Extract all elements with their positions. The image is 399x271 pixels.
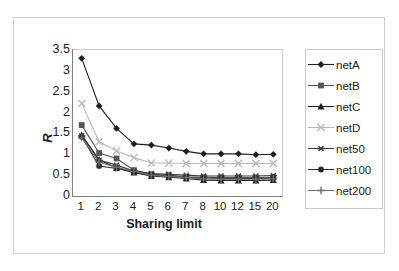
- legend-symbol-square-icon: [306, 75, 336, 96]
- y-tick-label: 1.5: [36, 127, 70, 137]
- chart-legend: netAnetBnetCnetDnet50net100net200: [305, 49, 383, 209]
- y-tick-label: 3: [36, 65, 70, 75]
- legend-label: net200: [336, 185, 371, 197]
- data-point-cross: [130, 154, 137, 161]
- legend-item-netA: netA: [306, 54, 382, 75]
- plot-container: R 00.511.522.533.5 1234567810121520 Shar…: [14, 18, 294, 255]
- legend-item-netD: netD: [306, 117, 382, 138]
- series-line-netA: [82, 58, 274, 154]
- legend-symbol-triangle-icon: [306, 96, 336, 117]
- y-tick-label: 2: [36, 107, 70, 117]
- legend-label: netC: [336, 101, 360, 113]
- series-line-netB: [82, 125, 274, 178]
- data-point-diamond: [218, 150, 225, 157]
- data-point-diamond: [270, 151, 277, 158]
- y-tick-label: 2.5: [36, 86, 70, 96]
- data-point-plus: [317, 187, 324, 194]
- data-point-square: [96, 150, 102, 156]
- series-line-netC: [82, 135, 274, 180]
- series-line-net200: [82, 138, 274, 180]
- y-tick-label: 1: [36, 148, 70, 158]
- data-point-diamond: [235, 150, 242, 157]
- data-point-diamond: [318, 61, 325, 68]
- data-point-asterisk: [317, 146, 324, 151]
- data-point-diamond: [148, 142, 155, 149]
- legend-item-net200: net200: [306, 180, 382, 201]
- data-point-cross: [96, 138, 103, 145]
- data-point-square: [318, 83, 324, 89]
- data-point-diamond: [200, 150, 207, 157]
- legend-label: netD: [336, 122, 360, 134]
- chart-figure: R 00.511.522.533.5 1234567810121520 Shar…: [13, 17, 385, 254]
- legend-symbol-diamond-icon: [306, 54, 336, 75]
- legend-item-netC: netC: [306, 96, 382, 117]
- series-canvas: [73, 50, 282, 196]
- data-point-square: [79, 122, 85, 128]
- legend-symbol-cross-icon: [306, 117, 336, 138]
- legend-item-netB: netB: [306, 75, 382, 96]
- legend-label: net100: [336, 164, 371, 176]
- y-tick-label: 0.5: [36, 169, 70, 179]
- legend-label: netA: [336, 59, 360, 71]
- series-line-net50: [82, 136, 274, 176]
- legend-item-net50: net50: [306, 138, 382, 159]
- legend-label: net50: [336, 143, 365, 155]
- legend-symbol-plus-icon: [306, 180, 336, 201]
- x-axis-tick-labels: 1234567810121520: [14, 200, 294, 218]
- legend-item-net100: net100: [306, 159, 382, 180]
- data-point-diamond: [183, 148, 190, 155]
- y-tick-label: 0: [36, 190, 70, 200]
- data-point-cross: [78, 100, 85, 107]
- x-tick-label: 20: [259, 200, 285, 212]
- plot-area: [72, 49, 283, 197]
- y-tick-label: 3.5: [36, 44, 70, 54]
- data-point-diamond: [165, 145, 172, 152]
- data-point-diamond: [78, 55, 85, 62]
- legend-label: netB: [336, 80, 360, 92]
- series-line-net100: [82, 137, 274, 179]
- data-point-circle: [318, 167, 324, 173]
- legend-symbol-circle-icon: [306, 159, 336, 180]
- legend-symbol-asterisk-icon: [306, 138, 336, 159]
- x-axis-title: Sharing limit: [44, 217, 284, 231]
- data-point-square: [114, 156, 120, 162]
- data-point-diamond: [252, 151, 259, 158]
- data-point-cross: [113, 147, 120, 154]
